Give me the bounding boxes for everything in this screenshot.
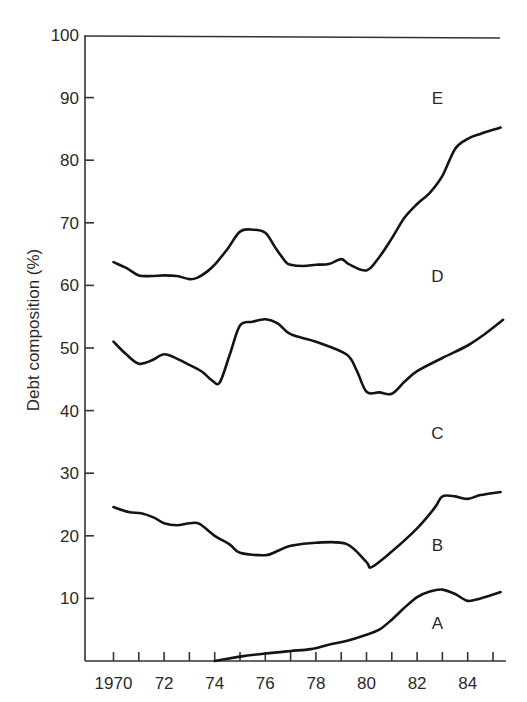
region-label-a: A bbox=[432, 614, 444, 633]
x-tick-label: 80 bbox=[357, 674, 376, 693]
y-tick-label: 10 bbox=[60, 589, 79, 608]
x-tick-label: 78 bbox=[306, 674, 325, 693]
series-lines bbox=[114, 128, 504, 661]
x-tick-label: 84 bbox=[458, 674, 477, 693]
region-label-c: C bbox=[431, 424, 443, 443]
top-border bbox=[85, 36, 500, 38]
series-line-d-e-boundary bbox=[114, 128, 501, 280]
y-tick-label: 70 bbox=[60, 214, 79, 233]
y-tick-label: 30 bbox=[60, 464, 79, 483]
debt-composition-chart: 102030405060708090100 197072747678808284… bbox=[0, 0, 527, 702]
x-ticks: 197072747678808284 bbox=[95, 652, 493, 693]
y-tick-label: 40 bbox=[60, 402, 79, 421]
x-tick-label: 76 bbox=[256, 674, 275, 693]
y-tick-label: 90 bbox=[60, 89, 79, 108]
y-ticks: 102030405060708090100 bbox=[51, 26, 94, 608]
region-label-d: D bbox=[431, 267, 443, 286]
y-tick-label: 50 bbox=[60, 339, 79, 358]
series-line-b-c-boundary bbox=[114, 492, 501, 568]
series-line-a-b-boundary bbox=[215, 590, 501, 661]
y-tick-label: 80 bbox=[60, 151, 79, 170]
x-tick-label: 74 bbox=[205, 674, 224, 693]
region-label-b: B bbox=[432, 536, 443, 555]
region-label-e: E bbox=[432, 89, 443, 108]
y-axis-title: Debt composition (%) bbox=[24, 249, 43, 412]
axes bbox=[85, 35, 506, 661]
x-tick-label: 72 bbox=[155, 674, 174, 693]
series-line-c-d-boundary bbox=[114, 319, 504, 394]
y-tick-label: 20 bbox=[60, 527, 79, 546]
x-tick-label: 82 bbox=[408, 674, 427, 693]
y-tick-label: 60 bbox=[60, 276, 79, 295]
x-tick-label: 1970 bbox=[95, 674, 133, 693]
y-tick-label: 100 bbox=[51, 26, 79, 45]
